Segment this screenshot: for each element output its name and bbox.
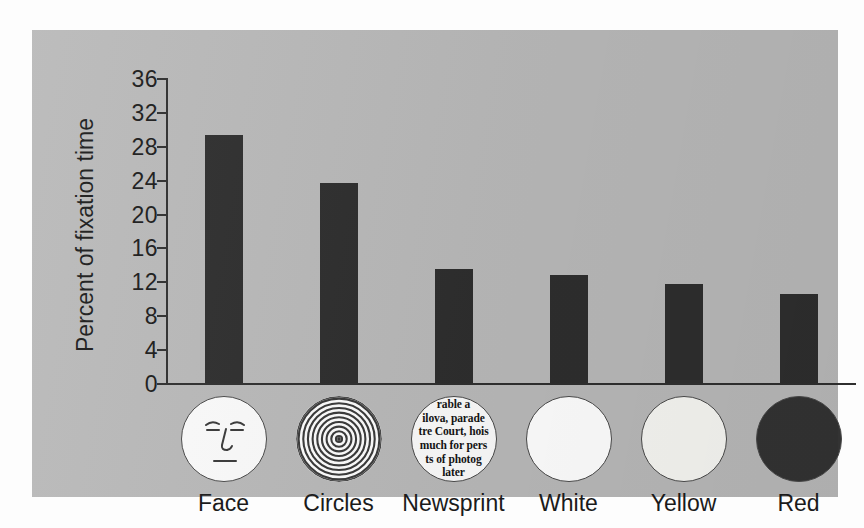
y-axis-title-text: Percent of fixation time bbox=[72, 90, 99, 380]
stimulus-row: FaceCirclesrable ailova, paradetre Court… bbox=[166, 396, 856, 492]
y-tick-label: 4 bbox=[145, 337, 158, 364]
y-tick-mark bbox=[157, 349, 166, 351]
newsprint-line: rable a bbox=[437, 398, 470, 412]
bar-white bbox=[550, 275, 588, 383]
y-tick-label: 28 bbox=[131, 133, 158, 160]
category-label-white: White bbox=[511, 490, 626, 517]
y-tick-label: 32 bbox=[131, 99, 158, 126]
y-tick-mark bbox=[157, 180, 166, 182]
bar-face bbox=[205, 135, 243, 383]
y-tick-label: 16 bbox=[131, 235, 158, 262]
y-tick-label: 0 bbox=[145, 371, 158, 398]
y-axis-title: Percent of fixation time bbox=[72, 0, 99, 90]
category-label-face: Face bbox=[166, 490, 281, 517]
chart-panel: Percent of fixation time 363228242016128… bbox=[32, 30, 838, 497]
bar-newsprint bbox=[435, 269, 473, 383]
x-axis-line bbox=[166, 383, 856, 385]
y-tick-mark bbox=[157, 383, 166, 385]
concentric-circles-icon bbox=[296, 396, 382, 482]
concentric-circles-icon bbox=[296, 396, 382, 482]
bar-yellow bbox=[665, 284, 703, 383]
red-disc-icon bbox=[756, 396, 842, 482]
y-tick-mark bbox=[157, 112, 166, 114]
yellow-disc-icon bbox=[641, 396, 727, 482]
category-label-red: Red bbox=[741, 490, 856, 517]
y-axis-line bbox=[166, 78, 168, 385]
y-tick-mark bbox=[157, 281, 166, 283]
newsprint-line: later bbox=[442, 466, 464, 480]
schematic-face-icon bbox=[182, 397, 267, 482]
stimulus-red: Red bbox=[741, 396, 856, 526]
plot-area: 36322824201612840 bbox=[166, 78, 856, 385]
bar-circles bbox=[320, 183, 358, 383]
newsprint-line: tre Court, hois bbox=[418, 425, 488, 439]
y-tick-label: 36 bbox=[131, 66, 158, 93]
schematic-face-icon bbox=[181, 396, 267, 482]
y-tick-mark bbox=[157, 78, 166, 80]
y-tick-label: 8 bbox=[145, 303, 158, 330]
stimulus-yellow: Yellow bbox=[626, 396, 741, 526]
white-disc-icon bbox=[526, 396, 612, 482]
y-tick-label: 12 bbox=[131, 269, 158, 296]
newsprint-line: ilova, parade bbox=[422, 412, 485, 426]
newsprint-line: much for pers bbox=[420, 439, 487, 453]
y-tick-mark bbox=[157, 315, 166, 317]
stimulus-face: Face bbox=[166, 396, 281, 526]
stimulus-white: White bbox=[511, 396, 626, 526]
category-label-yellow: Yellow bbox=[626, 490, 741, 517]
y-tick-label: 24 bbox=[131, 167, 158, 194]
y-tick-mark bbox=[157, 247, 166, 249]
y-tick-label: 20 bbox=[131, 201, 158, 228]
category-label-circles: Circles bbox=[281, 490, 396, 517]
newsprint-text-icon: rable ailova, paradetre Court, hoismuch … bbox=[411, 396, 497, 482]
figure: Percent of fixation time 363228242016128… bbox=[0, 0, 864, 528]
y-tick-mark bbox=[157, 214, 166, 216]
stimulus-newsprint: rable ailova, paradetre Court, hoismuch … bbox=[396, 396, 511, 526]
y-tick-mark bbox=[157, 146, 166, 148]
bar-red bbox=[780, 294, 818, 383]
newsprint-line: ts of photog bbox=[425, 453, 481, 467]
category-label-newsprint: Newsprint bbox=[396, 490, 511, 517]
stimulus-circles: Circles bbox=[281, 396, 396, 526]
